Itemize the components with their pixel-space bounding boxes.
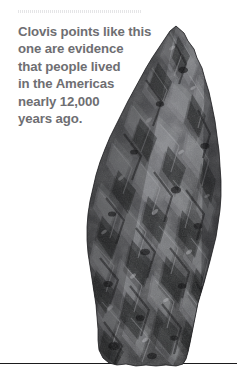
caption-line: that people lived [18, 58, 136, 75]
caption-line: nearly 12,000 [18, 93, 136, 110]
caption-line: Clovis points like this [18, 23, 136, 40]
top-dotted-divider [18, 10, 141, 13]
caption-line: years ago. [18, 110, 136, 127]
bottom-hairline-divider [0, 363, 237, 364]
figure-caption: Clovis points like this one are evidence… [18, 23, 136, 127]
caption-line: in the Americas [18, 75, 136, 92]
caption-line: one are evidence [18, 40, 136, 57]
figure-panel: Clovis points like this one are evidence… [0, 0, 237, 387]
